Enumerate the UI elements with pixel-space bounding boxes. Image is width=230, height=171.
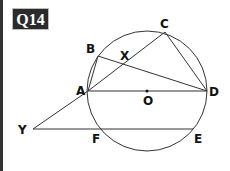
label-x: X <box>120 49 130 63</box>
label-f: F <box>92 132 100 146</box>
label-a: A <box>76 84 86 98</box>
label-e: E <box>194 132 202 146</box>
label-y: Y <box>17 123 27 137</box>
label-d: D <box>209 85 219 99</box>
label-c: C <box>160 17 169 31</box>
center-dot-o <box>146 90 149 93</box>
label-o: O <box>143 94 153 108</box>
chord-bd <box>98 56 207 91</box>
label-b: B <box>86 42 95 56</box>
chord-cd <box>165 32 207 91</box>
geometry-diagram: A B C D E F O X Y <box>0 0 230 171</box>
